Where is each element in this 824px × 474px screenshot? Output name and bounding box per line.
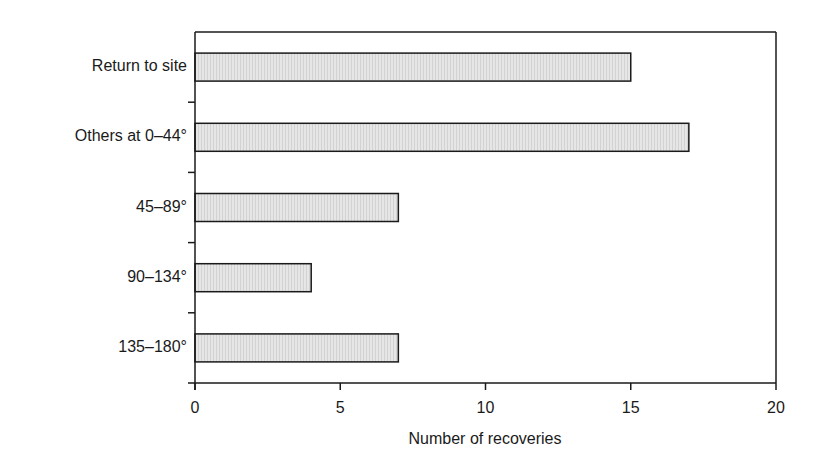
bar — [195, 334, 398, 362]
bar — [195, 194, 398, 222]
x-tick-label: 5 — [336, 399, 345, 417]
bar — [195, 264, 311, 292]
x-tick-label: 15 — [622, 399, 640, 417]
bar — [195, 53, 631, 81]
category-label: Others at 0–44° — [75, 127, 187, 145]
x-tick-label: 10 — [477, 399, 495, 417]
x-tick-label: 0 — [191, 399, 200, 417]
bar-chart: Return to siteOthers at 0–44°45–89°90–13… — [0, 0, 824, 474]
category-label: 45–89° — [136, 198, 187, 216]
category-label: Return to site — [92, 57, 187, 75]
x-tick-label: 20 — [767, 399, 785, 417]
x-axis-title: Number of recoveries — [409, 430, 562, 448]
bar — [195, 123, 689, 151]
category-label: 135–180° — [118, 338, 187, 356]
category-label: 90–134° — [127, 268, 187, 286]
